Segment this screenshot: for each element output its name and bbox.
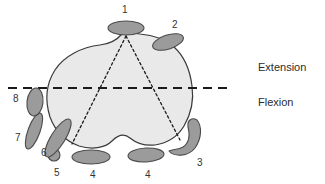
label-3: 3 (197, 158, 203, 168)
label-4-right: 4 (145, 170, 151, 180)
structure-1 (108, 21, 144, 35)
anatomical-diagram-canvas (0, 0, 325, 184)
label-8: 8 (13, 94, 19, 104)
figure-root: 123445678 ExtensionFlexion (0, 0, 325, 184)
side-label-flexion: Flexion (258, 97, 293, 108)
structure-7 (22, 111, 46, 151)
label-5: 5 (54, 168, 60, 178)
structure-4-right (128, 147, 165, 163)
structure-8 (26, 87, 45, 117)
label-1: 1 (122, 5, 128, 15)
label-4-left: 4 (90, 170, 96, 180)
structure-4-left (72, 150, 110, 164)
side-label-extension: Extension (258, 62, 306, 73)
label-2: 2 (172, 20, 178, 30)
label-6: 6 (41, 148, 47, 158)
label-7: 7 (15, 133, 21, 143)
